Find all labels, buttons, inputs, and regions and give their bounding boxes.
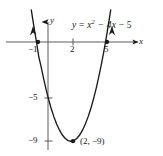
point-vertex xyxy=(71,139,75,143)
x-axis-label: x xyxy=(139,37,143,46)
x-tick-label-2: 2 xyxy=(70,45,75,54)
equation-label: y = x2 − 4x − 5 xyxy=(72,19,132,31)
y-tick-label-neg5: −5 xyxy=(28,93,38,102)
equation-term3: − 5 xyxy=(119,20,132,30)
parabola-figure: x y y = x2 − 4x − 5 −1 2 5 −5 −9 (2, −9) xyxy=(0,0,163,156)
y-axis-label: y xyxy=(50,16,54,25)
y-tick-label-neg9: −9 xyxy=(28,136,38,145)
vertex-point-label: (2, −9) xyxy=(80,137,105,146)
curve-left-arrowhead xyxy=(30,26,36,35)
x-tick-label-5: 5 xyxy=(104,45,109,54)
equation-term2: − 4x xyxy=(98,20,117,30)
x-tick-label-neg1: −1 xyxy=(28,45,38,54)
